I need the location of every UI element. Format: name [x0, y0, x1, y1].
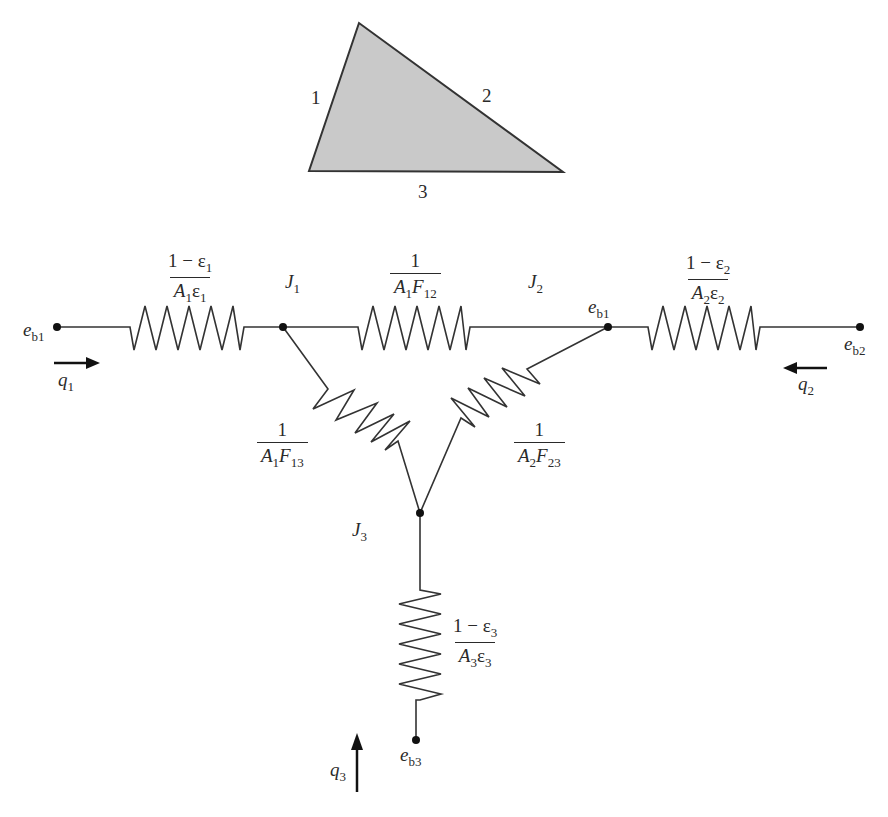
node-eb1-right	[604, 323, 612, 331]
node-eb2	[856, 323, 864, 331]
circuit-diagram	[0, 0, 888, 817]
node-eb1-right-label: eb1	[588, 297, 609, 320]
node-eb3-label: eb3	[400, 745, 421, 768]
resistor-r3	[399, 513, 441, 740]
node-eb1-left-label: eb1	[23, 320, 44, 343]
node-eb1-left	[53, 323, 61, 331]
resistor-r1-label: 1 − ε1 A1ε1	[164, 251, 216, 304]
resistor-r12-label: 1 A1F12	[390, 251, 441, 300]
node-J3-label: J3	[352, 520, 367, 543]
node-J1-label: J1	[285, 272, 300, 295]
resistor-r12	[283, 306, 608, 350]
resistor-r23-label: 1 A2F23	[514, 420, 565, 469]
node-eb2-label: eb2	[844, 334, 865, 357]
node-J1	[279, 323, 287, 331]
node-J3	[416, 509, 424, 517]
flow-q3-label: q3	[330, 760, 346, 783]
resistor-r1	[57, 306, 283, 350]
resistor-r2	[608, 306, 860, 350]
flow-q2-label: q2	[798, 374, 814, 397]
resistor-r3-label: 1 − ε3 A3ε3	[449, 616, 501, 669]
node-eb3	[412, 736, 420, 744]
node-J2-label: J2	[528, 272, 543, 295]
triangle-shape	[309, 23, 563, 172]
triangle-side-3-label: 3	[418, 182, 428, 201]
resistor-r2-label: 1 − ε2 A2ε2	[682, 253, 734, 306]
flow-q1-label: q1	[58, 370, 74, 393]
resistor-r13-label: 1 A1F13	[257, 420, 308, 469]
triangle-side-1-label: 1	[311, 88, 321, 107]
triangle-side-2-label: 2	[482, 86, 492, 105]
